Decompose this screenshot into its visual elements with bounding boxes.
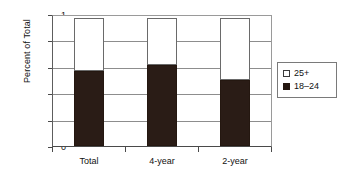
stacked-bar-chart: Percent of Total 1 0.8 0.6 0.4 0.2 0 [0,0,345,178]
chart-legend: 25+ 18–24 [277,62,337,98]
x-tick-label-4-year: 4-year [125,156,199,166]
plot-area [52,15,272,147]
legend-swatch-18-24-icon [283,83,290,90]
bar-segment-25plus-4-year [147,18,177,65]
x-tick-mark-0 [52,147,53,152]
legend-label-18-24: 18–24 [294,82,319,91]
bar-group-total [74,14,104,146]
x-tick-mark-2 [198,147,199,152]
legend-item-18-24: 18–24 [283,80,332,93]
x-tick-mark-3 [271,147,272,152]
legend-label-25plus: 25+ [294,69,309,78]
bar-group-4-year [147,14,177,146]
x-tick-label-2-year: 2-year [198,156,272,166]
x-tick-label-total: Total [52,156,126,166]
bar-segment-25plus-total [74,18,104,71]
legend-swatch-25plus-icon [283,70,290,77]
bar-segment-18-24-total [74,71,104,146]
bar-segment-18-24-4-year [147,65,177,146]
x-tick-mark-1 [125,147,126,152]
bar-segment-18-24-2-year [220,80,250,146]
bar-stack-4-year [147,18,177,146]
bar-segment-25plus-2-year [220,18,250,80]
bar-group-2-year [220,14,250,146]
legend-item-25plus: 25+ [283,67,332,80]
bar-stack-2-year [220,18,250,146]
bar-stack-total [74,18,104,146]
